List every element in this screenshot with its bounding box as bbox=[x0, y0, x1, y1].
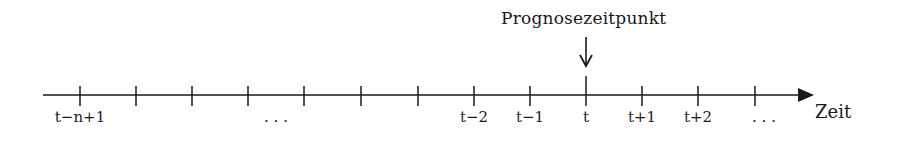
tick-label-ellipsis-left: . . . bbox=[264, 108, 288, 126]
tick-label-ellipsis-right: . . . bbox=[752, 108, 776, 126]
tick-label-t-plus-1: t+1 bbox=[628, 108, 656, 126]
axis-label-time: Zeit bbox=[815, 101, 851, 122]
axis-arrowhead-icon bbox=[798, 88, 814, 102]
forecast-point-label: Prognosezeitpunkt bbox=[501, 8, 666, 28]
tick-marks bbox=[80, 76, 755, 106]
tick-label-t: t bbox=[583, 108, 589, 126]
tick-label-t-plus-2: t+2 bbox=[684, 108, 712, 126]
tick-label-t-n-1: t−n+1 bbox=[55, 108, 105, 126]
tick-label-t-1: t−1 bbox=[516, 108, 544, 126]
tick-label-t-2: t−2 bbox=[460, 108, 488, 126]
